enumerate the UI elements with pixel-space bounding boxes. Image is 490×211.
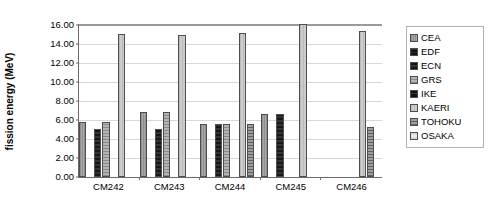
x-axis-label-cm242: CM242 xyxy=(78,182,139,202)
legend-item-kaeri: KAERI xyxy=(410,101,480,115)
legend-swatch-cea xyxy=(410,34,418,42)
bar-tohoku xyxy=(247,124,254,177)
y-axis-tick-label: 4.00 xyxy=(56,134,75,144)
x-axis-tick-mark xyxy=(320,177,321,180)
y-axis-tick-label: 10.00 xyxy=(50,77,74,87)
chart-legend: CEAEDFECNGRSIKEKAERITOHOKUOSAKA xyxy=(406,26,484,148)
legend-item-ecn: ECN xyxy=(410,59,480,73)
bar-group-cm244 xyxy=(200,25,261,177)
bar-ecn xyxy=(215,124,222,177)
legend-label: KAERI xyxy=(421,103,450,113)
x-axis-tick-mark xyxy=(139,177,140,180)
y-axis-tick-label: 12.00 xyxy=(50,58,74,68)
legend-label: CEA xyxy=(421,33,441,43)
bar-cea xyxy=(200,124,207,177)
legend-label: OSAKA xyxy=(421,131,454,141)
bar-cea xyxy=(79,122,86,177)
y-axis-tick-label: 8.00 xyxy=(56,96,75,106)
bar-kaeri xyxy=(178,35,185,177)
bar-groups xyxy=(79,25,382,177)
y-axis-title-text: fission energy (MeV) xyxy=(5,52,16,150)
bar-cea xyxy=(261,114,268,177)
bar-group-cm243 xyxy=(140,25,201,177)
legend-swatch-ike xyxy=(410,90,418,98)
bar-group-cm245 xyxy=(261,25,322,177)
plot-wrapper: fission energy (MeV) 16.0014.0012.0010.0… xyxy=(0,0,400,211)
x-axis-label-cm245: CM245 xyxy=(260,182,321,202)
legend-item-grs: GRS xyxy=(410,73,480,87)
legend-label: EDF xyxy=(421,47,440,57)
bar-ecn xyxy=(276,114,283,177)
bar-group-cm246 xyxy=(321,25,382,177)
bars xyxy=(140,25,201,177)
plot-area: 16.0014.0012.0010.008.006.004.002.000.00 xyxy=(78,24,382,178)
bar-kaeri xyxy=(359,31,366,177)
bar-grs xyxy=(163,112,170,177)
legend-label: GRS xyxy=(421,75,442,85)
x-axis-label-cm244: CM244 xyxy=(200,182,261,202)
x-axis-label-cm246: CM246 xyxy=(321,182,382,202)
legend-item-cea: CEA xyxy=(410,31,480,45)
bar-kaeri xyxy=(299,24,306,177)
legend-swatch-ecn xyxy=(410,62,418,70)
bars xyxy=(79,25,140,177)
legend-swatch-tohoku xyxy=(410,118,418,126)
y-axis-tick-label: 6.00 xyxy=(56,115,75,125)
bar-group-cm242 xyxy=(79,25,140,177)
legend-item-edf: EDF xyxy=(410,45,480,59)
x-axis-tick-mark xyxy=(260,177,261,180)
legend-label: ECN xyxy=(421,61,441,71)
bar-ecn xyxy=(94,129,101,177)
x-axis-tick-mark xyxy=(199,177,200,180)
bar-kaeri xyxy=(239,33,246,177)
y-axis-tick-label: 0.00 xyxy=(56,172,75,182)
bars xyxy=(321,25,382,177)
legend-swatch-grs xyxy=(410,76,418,84)
bar-tohoku xyxy=(367,127,374,177)
bar-grs xyxy=(102,122,109,177)
bars xyxy=(200,25,261,177)
legend-swatch-kaeri xyxy=(410,104,418,112)
legend-swatch-edf xyxy=(410,48,418,56)
x-axis-label-cm243: CM243 xyxy=(139,182,200,202)
bars xyxy=(261,25,322,177)
y-axis-tick-label: 2.00 xyxy=(56,153,75,163)
y-axis-tick-label: 14.00 xyxy=(50,39,74,49)
legend-swatch-osaka xyxy=(410,132,418,140)
x-axis-labels: CM242CM243CM244CM245CM246 xyxy=(78,182,382,202)
bar-grs xyxy=(223,124,230,177)
legend-item-osaka: OSAKA xyxy=(410,129,480,143)
chart-screenshot: fission energy (MeV) 16.0014.0012.0010.0… xyxy=(0,0,490,211)
y-axis-title: fission energy (MeV) xyxy=(2,24,18,178)
legend-label: IKE xyxy=(421,89,436,99)
y-axis-tick-label: 16.00 xyxy=(50,20,74,30)
bar-kaeri xyxy=(118,34,125,177)
bar-cea xyxy=(140,112,147,177)
legend-item-tohoku: TOHOKU xyxy=(410,115,480,129)
bar-ecn xyxy=(155,129,162,177)
legend-label: TOHOKU xyxy=(421,117,461,127)
legend-item-ike: IKE xyxy=(410,87,480,101)
